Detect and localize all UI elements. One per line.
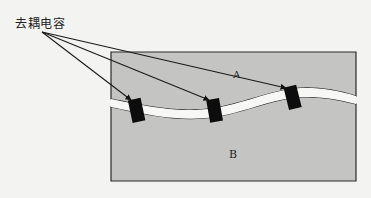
region-b-label: B [229,148,237,161]
decoupling-capacitor-label: 去耦电容 [15,14,65,31]
region-a-label: A [233,69,240,80]
